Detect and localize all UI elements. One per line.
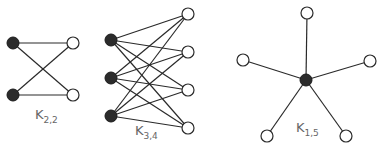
filled-vertex: [7, 37, 19, 49]
open-vertex: [182, 46, 194, 58]
filled-vertex: [105, 110, 117, 122]
bipartite-graphs-canvas: [0, 0, 385, 150]
open-vertex: [261, 130, 273, 142]
open-vertex: [182, 84, 194, 96]
label-main: K: [35, 107, 44, 122]
nodes: [7, 7, 376, 142]
open-vertex: [67, 37, 79, 49]
open-vertex: [340, 130, 352, 142]
graph-edge: [243, 60, 306, 80]
graph-edge: [111, 90, 188, 116]
filled-vertex: [300, 74, 312, 86]
graph-label: K1,5: [296, 120, 319, 138]
graph-label: K3,4: [135, 123, 158, 141]
label-subscript: 2,2: [44, 115, 58, 125]
open-vertex: [182, 122, 194, 134]
open-vertex: [364, 55, 376, 67]
edges: [13, 13, 370, 136]
filled-vertex: [105, 34, 117, 46]
open-vertex: [237, 54, 249, 66]
graph-edge: [306, 61, 370, 80]
label-main: K: [296, 120, 305, 135]
label-main: K: [135, 123, 144, 138]
graph-edge: [111, 14, 188, 116]
graph-edge: [111, 52, 188, 116]
graph-edge: [111, 14, 188, 78]
label-subscript: 1,5: [305, 128, 319, 138]
filled-vertex: [105, 72, 117, 84]
filled-vertex: [7, 89, 19, 101]
label-subscript: 3,4: [144, 131, 158, 141]
graph-edge: [306, 13, 307, 80]
open-vertex: [182, 8, 194, 20]
graph-edge: [111, 14, 188, 40]
graph-label: K2,2: [35, 107, 58, 125]
open-vertex: [301, 7, 313, 19]
open-vertex: [67, 89, 79, 101]
